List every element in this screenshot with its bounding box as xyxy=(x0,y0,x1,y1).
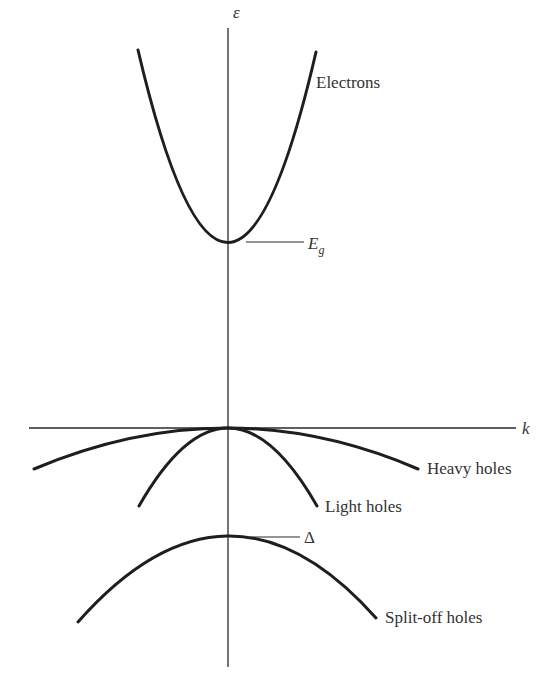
energy-axis-label: ε xyxy=(233,3,240,22)
band-gap-subscript: g xyxy=(318,243,324,257)
heavy-holes-label: Heavy holes xyxy=(427,459,512,478)
electrons-band-curve xyxy=(138,50,316,243)
light-holes-label: Light holes xyxy=(325,497,402,516)
heavy-holes-band-curve xyxy=(34,428,418,469)
k-axis-label: k xyxy=(522,419,530,438)
band-diagram: ε k Electrons Heavy holes Light holes Sp… xyxy=(0,0,555,697)
electrons-label: Electrons xyxy=(316,73,380,92)
split-off-energy-label: Δ xyxy=(304,528,315,547)
band-gap-symbol: E xyxy=(307,234,319,253)
band-gap-label: Eg xyxy=(307,234,324,257)
split-off-holes-band-curve xyxy=(78,536,376,622)
split-off-holes-label: Split-off holes xyxy=(385,608,482,627)
